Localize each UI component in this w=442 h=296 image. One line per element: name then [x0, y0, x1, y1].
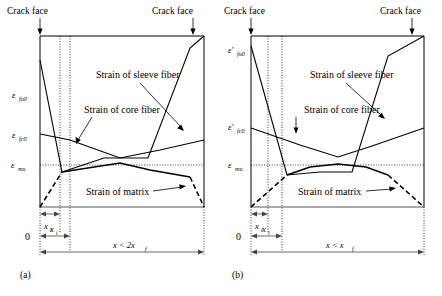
svg-text:x: x [49, 224, 54, 234]
svg-text:mu: mu [235, 165, 243, 172]
svg-text:ε: ε [12, 130, 16, 140]
panel-caption-a: (a) [20, 270, 31, 281]
crack-face-arrow-left-a [37, 18, 42, 35]
svg-text:fc0: fc0 [237, 127, 245, 134]
annot-core-a: Strain of core fiber [84, 104, 160, 115]
svg-text:ε: ε [228, 160, 232, 170]
matrix-curve-right-dash-a [190, 177, 204, 207]
svg-text:i: i [56, 230, 58, 236]
annot-core-leader-a [76, 117, 92, 144]
annot-matrix-leader-a [153, 184, 186, 191]
crack-face-label-right-a: Crack face [152, 6, 193, 16]
y-label-mu-a: ε mu [11, 160, 26, 172]
y-label-fu0-a: ε fu0 [12, 90, 28, 102]
annot-matrix-b: Strain of matrix [298, 186, 361, 197]
annot-core-leader-b [294, 117, 299, 134]
y-label-fu0-b: ε′ fu0 [228, 45, 246, 57]
svg-text:mu: mu [18, 165, 26, 172]
matrix-curve-left-dash-b [251, 175, 287, 207]
origin-label-a: 0 [25, 231, 30, 242]
svg-text:x < 2x: x < 2x [112, 240, 135, 250]
svg-text:fc0: fc0 [19, 135, 27, 142]
svg-text:x: x [43, 221, 48, 231]
svg-text:x: x [261, 224, 266, 234]
crack-face-arrow-right-a [190, 18, 195, 35]
svg-text:i: i [268, 230, 270, 236]
annot-sleeve-a: Strain of sleeve fiber [96, 69, 180, 80]
y-label-mu-b: ε mu [228, 160, 243, 172]
origin-label-b: 0 [236, 231, 241, 242]
annot-matrix-a: Strain of matrix [86, 186, 149, 197]
svg-text:fu0: fu0 [237, 50, 246, 57]
crack-face-label-left-a: Crack face [7, 6, 48, 16]
core-fiber-curve-a [40, 134, 204, 158]
panel-caption-b: (b) [232, 270, 243, 281]
annot-core-b: Strain of core fiber [304, 104, 380, 115]
svg-text:x < x: x < x [325, 240, 344, 250]
svg-text:f: f [352, 246, 355, 252]
y-label-fc0-a: ε fc0 [12, 130, 27, 142]
dim-total-b: x < x f [251, 240, 424, 254]
annot-sleeve-b: Strain of sleeve fiber [310, 69, 394, 80]
matrix-curve-right-dash-b [388, 175, 424, 207]
svg-text:ε′: ε′ [228, 45, 235, 55]
core-fiber-curve-b [251, 128, 424, 157]
svg-text:ε′: ε′ [228, 122, 235, 132]
crack-face-arrow-right-b [409, 18, 414, 35]
svg-text:x: x [254, 221, 259, 231]
dim-total-a: x < 2x f [40, 240, 204, 254]
y-label-fc0-b: ε′ fc0 [228, 122, 245, 134]
crack-face-label-right-b: Crack face [380, 6, 421, 16]
panel-a: Crack face Crack face ε fu0 [7, 6, 204, 281]
svg-text:f: f [145, 246, 148, 252]
annot-matrix-leader-b [366, 186, 396, 191]
svg-text:ε: ε [12, 90, 16, 100]
crack-face-label-left-b: Crack face [224, 6, 265, 16]
matrix-curve-left-dash-a [40, 172, 62, 207]
svg-text:fu0: fu0 [19, 95, 28, 102]
crack-face-arrow-left-b [248, 18, 253, 35]
svg-text:ε: ε [11, 160, 15, 170]
panel-b: Crack face Crack face ε′ fu0 ε′ fc0 ε [224, 6, 424, 281]
figure-container: Crack face Crack face ε fu0 [0, 0, 442, 296]
